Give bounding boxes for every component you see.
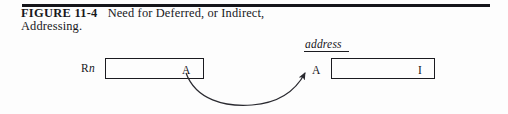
register-label-prefix: R [81,62,89,74]
pointer-target-value: A [312,64,320,76]
address-label: address [305,38,342,50]
indirect-addressing-diagram: Rn A address A I [0,0,508,114]
figure-root: FIGURE 11-4Need for Deferred, or Indirec… [0,0,508,114]
register-label-subscript: n [89,62,95,74]
pointer-arrow [0,0,508,114]
target-box-value: I [418,64,422,76]
address-label-underline [304,51,349,52]
source-box-value: A [182,64,190,76]
register-label: Rn [81,62,95,74]
